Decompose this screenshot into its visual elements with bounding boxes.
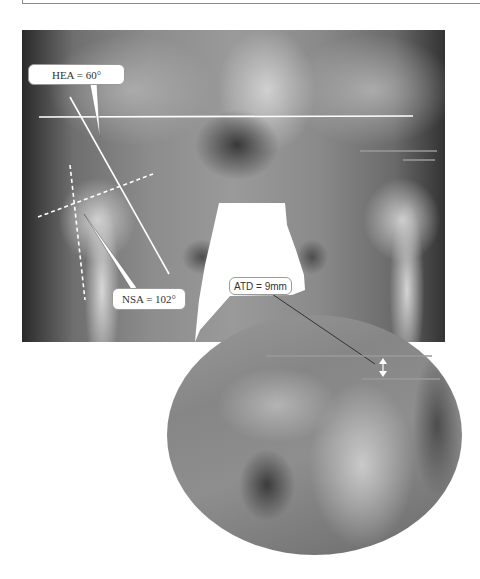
magnified-femoral-head-inset bbox=[167, 315, 462, 555]
nsa-label: NSA = 102° bbox=[112, 288, 186, 310]
top-frame-border bbox=[22, 0, 480, 4]
atd-label: ATD = 9mm bbox=[229, 277, 292, 295]
hea-label: HEA = 60° bbox=[28, 64, 125, 85]
